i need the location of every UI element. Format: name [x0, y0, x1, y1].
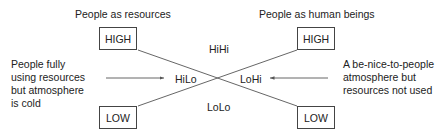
- quadrant-lohi: LoHi: [240, 73, 262, 86]
- quadrant-hihi: HiHi: [209, 43, 229, 56]
- heading-people-as-resources: People as resources: [75, 8, 171, 21]
- quadrant-hilo: HiLo: [175, 73, 197, 86]
- box-resources-low: LOW: [297, 106, 335, 129]
- box-human-high: HIGH: [297, 27, 335, 50]
- quadrant-lolo: LoLo: [207, 101, 230, 114]
- heading-people-as-human-beings: People as human beings: [259, 8, 375, 21]
- box-human-low: LOW: [99, 106, 137, 129]
- box-resources-high: HIGH: [99, 27, 137, 50]
